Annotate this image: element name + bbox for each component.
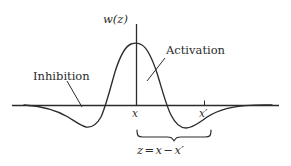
inhibition-leader-line: [67, 81, 82, 107]
equation-term-2: x′: [174, 143, 184, 157]
inhibition-label: Inhibition: [33, 71, 90, 83]
x-axis-tick-label-x: x: [132, 108, 138, 119]
equation-equals: =: [143, 143, 155, 157]
y-axis-label: w(z): [103, 14, 128, 26]
activation-leader-line: [147, 58, 165, 81]
figure-canvas: [0, 0, 291, 166]
brace-equation-label: z=x−x′: [137, 145, 184, 157]
x-axis-tick-label-x-prime: x′: [199, 108, 207, 119]
equation-minus: −: [162, 143, 174, 157]
weight-curve: [24, 43, 272, 128]
underbrace: [137, 130, 211, 141]
activation-label: Activation: [166, 45, 225, 57]
mexican-hat-figure: w(z) Activation Inhibition x x′ z=x−x′: [0, 0, 291, 166]
